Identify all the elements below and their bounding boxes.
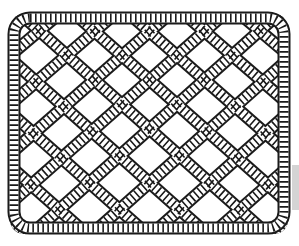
scrollbar-thumb[interactable] xyxy=(292,165,299,210)
celtic-knot-pattern xyxy=(0,0,299,246)
